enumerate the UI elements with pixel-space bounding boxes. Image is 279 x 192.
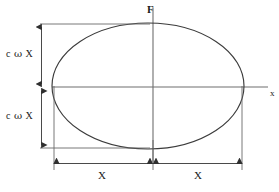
dimension-upper-variable: X	[26, 48, 34, 59]
horizontal-dimension-extension-lines	[54, 86, 242, 170]
dimension-label-horizontal-left: X	[98, 170, 106, 181]
dimension-label-vertical-upper: c ω X	[6, 49, 33, 59]
dimension-lower-omega-symbol: ω	[14, 110, 23, 121]
axis-label-force: F	[147, 4, 154, 15]
force-displacement-ellipse-diagram: F x c ω X c ω X X X	[0, 0, 279, 192]
axis-group	[52, 8, 268, 162]
dimension-label-horizontal-right: X	[194, 170, 202, 181]
dimension-upper-omega-symbol: ω	[14, 48, 23, 59]
vertical-dimension-extension-lines	[40, 24, 150, 148]
dimension-label-vertical-lower: c ω X	[6, 111, 33, 121]
dimension-lower-variable: X	[26, 110, 34, 121]
diagram-canvas	[0, 0, 279, 192]
axis-label-displacement: x	[270, 89, 275, 98]
ellipse-curve	[52, 23, 244, 149]
